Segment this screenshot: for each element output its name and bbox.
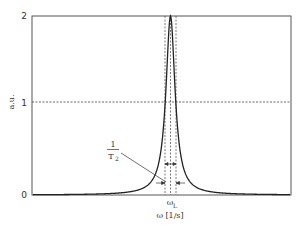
y-tick-0: 0 <box>21 190 27 200</box>
fwhm-label: 1 T 2 <box>107 140 119 162</box>
svg-text:2: 2 <box>115 155 119 162</box>
lorentzian-chart: 1 T 2 2 1 0 a.u. ω L ω [1/s] <box>0 0 306 229</box>
y-axis-label: a.u. <box>7 94 16 109</box>
x-tick-center-sub: L <box>173 202 177 209</box>
svg-text:1: 1 <box>110 140 115 149</box>
y-tick-1: 1 <box>21 98 27 108</box>
svg-text:T: T <box>108 152 114 161</box>
lorentzian-curve <box>33 16 290 195</box>
x-axis-label: ω [1/s] <box>156 211 183 220</box>
y-tick-2: 2 <box>21 11 27 21</box>
plot-frame <box>32 16 291 195</box>
